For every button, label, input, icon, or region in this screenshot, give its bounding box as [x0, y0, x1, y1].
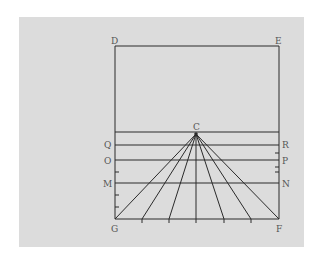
ray — [169, 134, 196, 219]
ray-C-F — [196, 134, 279, 219]
label-F: F — [276, 224, 282, 234]
label-M: M — [103, 179, 112, 189]
ray — [196, 134, 251, 219]
label-R: R — [282, 140, 289, 150]
ray — [196, 134, 224, 219]
label-D: D — [111, 36, 118, 46]
label-O: O — [104, 156, 111, 166]
label-G: G — [111, 224, 118, 234]
ray — [142, 134, 196, 219]
label-Q: Q — [104, 140, 111, 150]
label-N: N — [282, 179, 290, 189]
label-P: P — [282, 156, 288, 166]
ray-C-G — [115, 134, 196, 219]
label-E: E — [275, 36, 282, 46]
point-C — [194, 132, 198, 136]
label-C: C — [193, 122, 200, 132]
perspective-diagram: D E C Q R O P M N G F — [0, 0, 322, 271]
